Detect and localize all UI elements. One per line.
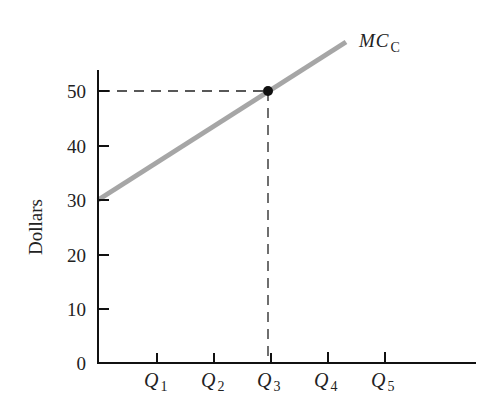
ytick-label-30: 30	[67, 190, 86, 211]
ytick-label-20: 20	[67, 245, 86, 266]
xtick-label-q1: Q1	[144, 369, 167, 394]
ytick-label-10: 10	[67, 299, 86, 320]
ytick-label-40: 40	[67, 136, 86, 157]
equilibrium-point	[263, 86, 273, 96]
y-ticks	[98, 91, 109, 309]
mc-line	[98, 42, 346, 200]
y-axis-label: Dollars	[25, 199, 46, 255]
xtick-label-q3: Q3	[257, 369, 280, 394]
xtick-label-q2: Q2	[201, 369, 224, 394]
ytick-label-0: 0	[77, 353, 87, 374]
xtick-label-q4: Q4	[314, 369, 337, 394]
ytick-label-50: 50	[67, 81, 86, 102]
series-label-mc-c: MCC	[358, 30, 401, 55]
chart: 50 40 30 20 10 0 Dollars Q1 Q2 Q3 Q4 Q5 …	[0, 0, 495, 413]
xtick-label-q5: Q5	[371, 369, 394, 394]
x-ticks	[157, 352, 385, 363]
